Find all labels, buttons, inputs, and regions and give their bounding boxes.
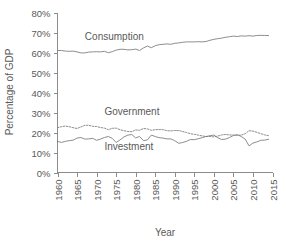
x-tick-label: 1980 (131, 180, 142, 201)
x-tick-label: 1995 (189, 180, 200, 201)
x-tick-label: 1965 (72, 180, 83, 201)
series-label-consumption: Consumption (85, 31, 144, 42)
series-label-government: Government (104, 106, 159, 117)
y-axis-title: Percentage of GDP (4, 48, 15, 135)
x-tick-label: 2010 (248, 180, 259, 201)
y-tick-label: 40% (31, 88, 51, 99)
y-tick-label: 10% (31, 148, 51, 159)
x-tick-label: 1975 (111, 180, 122, 201)
y-axis-ticks: 0%10%20%30%40%50%60%70%80% (31, 8, 57, 179)
x-tick-label: 1985 (150, 180, 161, 201)
x-axis-ticks: 1960196519701975198019851990199520002005… (53, 173, 279, 201)
chart-container: 0%10%20%30%40%50%60%70%80% 1960196519701… (0, 0, 286, 244)
x-tick-label: 1990 (170, 180, 181, 201)
x-tick-label: 2000 (209, 180, 220, 201)
y-tick-label: 30% (31, 108, 51, 119)
series-line-investment (58, 135, 269, 146)
x-axis-title: Year (155, 227, 176, 238)
y-tick-label: 60% (31, 48, 51, 59)
x-tick-label: 1970 (92, 180, 103, 201)
gdp-line-chart: 0%10%20%30%40%50%60%70%80% 1960196519701… (0, 0, 286, 244)
y-tick-label: 20% (31, 128, 51, 139)
series-label-investment: Investment (104, 141, 153, 152)
y-tick-label: 80% (31, 8, 51, 19)
x-tick-label: 2015 (268, 180, 279, 201)
y-tick-label: 0% (37, 168, 51, 179)
series-labels: ConsumptionGovernmentInvestment (85, 31, 160, 152)
series-group (58, 35, 269, 146)
x-tick-label: 2005 (228, 180, 239, 201)
y-tick-label: 70% (31, 28, 51, 39)
y-tick-label: 50% (31, 68, 51, 79)
x-tick-label: 1960 (53, 180, 64, 201)
